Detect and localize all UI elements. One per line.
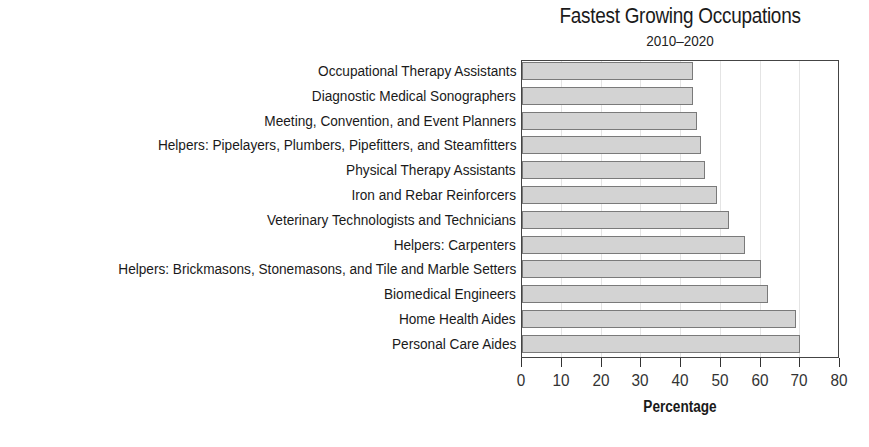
x-tick-label: 30 xyxy=(622,371,658,391)
bar xyxy=(522,260,761,278)
plot-area xyxy=(521,60,839,358)
x-tick-label: 0 xyxy=(503,371,539,391)
bar xyxy=(522,136,701,154)
x-tick xyxy=(760,358,761,367)
x-tick xyxy=(521,358,522,367)
category-label: Physical Therapy Assistants xyxy=(346,160,516,180)
x-tick xyxy=(839,358,840,367)
bar xyxy=(522,161,705,179)
x-tick-label: 60 xyxy=(742,371,778,391)
category-label: Biomedical Engineers xyxy=(384,284,516,304)
bar xyxy=(522,62,693,80)
x-axis-label: Percentage xyxy=(595,398,765,416)
x-tick-label: 20 xyxy=(583,371,619,391)
category-label: Meeting, Convention, and Event Planners xyxy=(264,111,516,131)
category-label: Personal Care Aides xyxy=(392,334,516,354)
x-tick-label: 40 xyxy=(662,371,698,391)
category-label: Occupational Therapy Assistants xyxy=(318,61,516,81)
category-label: Helpers: Carpenters xyxy=(394,235,516,255)
category-label: Home Health Aides xyxy=(399,309,516,329)
bar xyxy=(522,87,693,105)
category-label: Helpers: Pipelayers, Plumbers, Pipefitte… xyxy=(157,135,516,155)
chart-subtitle: 2010–2020 xyxy=(500,32,860,49)
bar xyxy=(522,186,717,204)
x-tick-label: 10 xyxy=(543,371,579,391)
bar xyxy=(522,335,800,353)
category-label: Iron and Rebar Reinforcers xyxy=(351,185,516,205)
x-tick-label: 80 xyxy=(821,371,857,391)
category-label: Diagnostic Medical Sonographers xyxy=(312,86,516,106)
x-tick xyxy=(799,358,800,367)
category-label: Helpers: Brickmasons, Stonemasons, and T… xyxy=(118,259,516,279)
bar xyxy=(522,310,796,328)
bar xyxy=(522,285,768,303)
x-tick xyxy=(640,358,641,367)
gridline xyxy=(799,61,800,357)
x-tick xyxy=(680,358,681,367)
x-tick xyxy=(720,358,721,367)
category-label: Veterinary Technologists and Technicians xyxy=(267,210,516,230)
x-tick xyxy=(601,358,602,367)
x-tick-label: 70 xyxy=(781,371,817,391)
x-tick-label: 50 xyxy=(702,371,738,391)
chart-title: Fastest Growing Occupations xyxy=(508,3,852,29)
x-tick xyxy=(561,358,562,367)
bar xyxy=(522,112,697,130)
bar xyxy=(522,236,745,254)
bar xyxy=(522,211,729,229)
